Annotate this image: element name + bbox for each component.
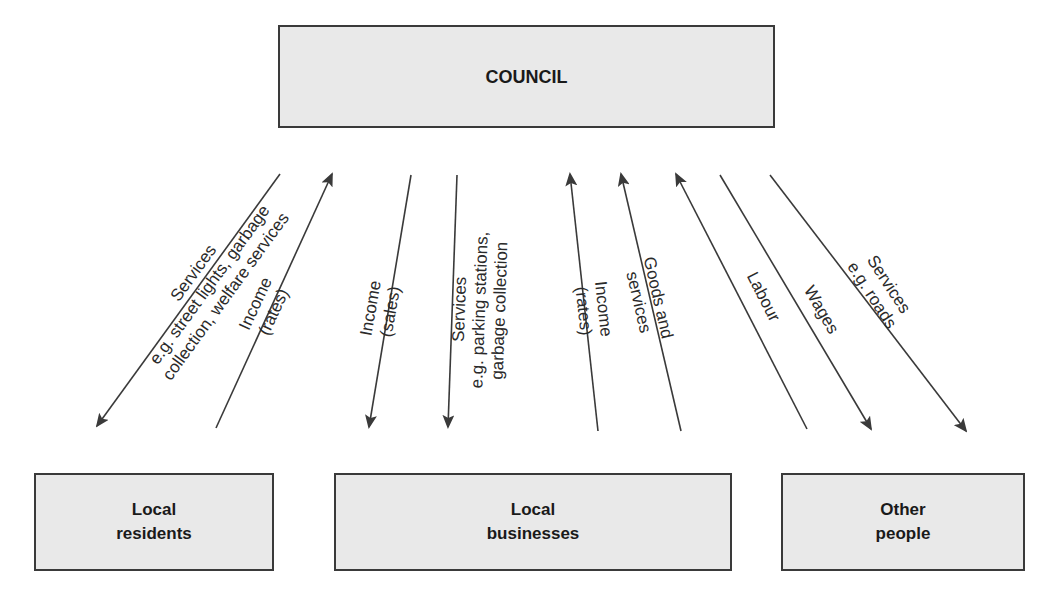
flow-label-services-parking: Services e.g. parking stations, garbage … <box>447 209 514 411</box>
